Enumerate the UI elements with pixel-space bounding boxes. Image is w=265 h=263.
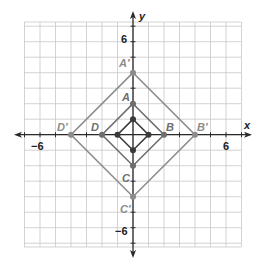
label-C: C (122, 172, 131, 184)
vertex-point (130, 194, 136, 200)
x-axis-label: x (243, 119, 251, 131)
vertex-point (130, 116, 136, 122)
label-D-prime: D′ (57, 121, 69, 133)
label-B: B (166, 121, 174, 133)
vertex-point (130, 70, 136, 76)
tick-label-x-pos6: 6 (223, 140, 229, 152)
vertex-point (146, 132, 152, 138)
tick-label-x-neg6: −6 (31, 140, 44, 152)
tick-label-y-neg6: −6 (115, 225, 128, 237)
vertex-point (99, 132, 105, 138)
vertex-point (130, 101, 136, 107)
label-A: A (121, 91, 130, 103)
labels: x y −6 6 6 −6 A B C D A′ B′ C′ D′ (31, 10, 251, 237)
coordinate-plane: x y −6 6 6 −6 A B C D A′ B′ C′ D′ (0, 0, 265, 263)
vertex-point (130, 147, 136, 153)
label-C-prime: C′ (120, 203, 132, 215)
vertex-point (68, 132, 74, 138)
tick-label-y-pos6: 6 (121, 33, 127, 45)
y-axis-label: y (138, 10, 146, 22)
label-D: D (91, 121, 99, 133)
axes (14, 11, 252, 258)
vertex-point (130, 163, 136, 169)
label-A-prime: A′ (118, 57, 131, 69)
label-B-prime: B′ (197, 121, 209, 133)
vertex-point (115, 132, 121, 138)
